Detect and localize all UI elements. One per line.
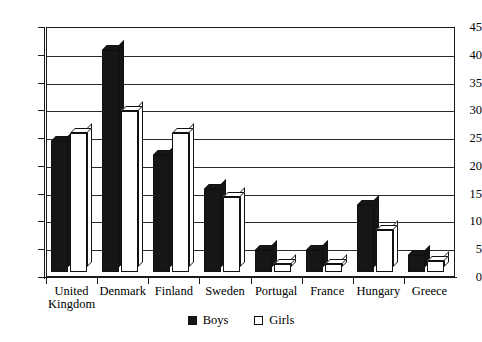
y-axis-tick (38, 166, 45, 167)
legend-label: Girls (269, 313, 294, 328)
bar-face (427, 261, 444, 272)
bar-face (204, 189, 221, 272)
bar-face (121, 111, 138, 272)
bar-face (255, 250, 272, 272)
x-axis-tick (353, 277, 354, 284)
y-axis-tick-label: 25 (448, 132, 482, 145)
bar-boys-4 (255, 250, 272, 272)
bar-side (240, 187, 245, 267)
bar-boys-6 (357, 205, 374, 272)
bar-face (274, 264, 291, 272)
x-axis-tick (46, 277, 47, 284)
y-axis-tick-label: 40 (448, 49, 482, 62)
bar-girls-7 (427, 261, 444, 272)
bar-face (102, 50, 119, 272)
x-axis-category-label: United Kingdom (46, 285, 97, 311)
y-axis-tick (38, 110, 45, 111)
x-axis-tick (97, 277, 98, 284)
x-axis-category-label: Greece (404, 285, 455, 298)
chart-legend: BoysGirls (0, 313, 482, 328)
bar-face (70, 133, 87, 272)
bar-boys-3 (204, 189, 221, 272)
bar-face (172, 133, 189, 272)
bar-boys-0 (51, 141, 68, 272)
bar-face (376, 230, 393, 272)
legend-item-boys: Boys (188, 313, 229, 328)
y-axis-tick-label: 20 (448, 160, 482, 173)
bar-girls-5 (325, 264, 342, 272)
bar-boys-1 (102, 50, 119, 272)
bar-face (153, 155, 170, 272)
y-axis-tick-label: 30 (448, 104, 482, 117)
bar-girls-0 (70, 133, 87, 272)
bar-girls-1 (121, 111, 138, 272)
x-axis-category-label: France (302, 285, 353, 298)
legend-label: Boys (203, 313, 229, 328)
y-axis-tick (38, 221, 45, 222)
y-axis-tick-label: 35 (448, 77, 482, 90)
x-axis-tick (251, 277, 252, 284)
x-axis-tick (199, 277, 200, 284)
y-axis-tick (38, 55, 45, 56)
bar-side (189, 123, 194, 267)
y-axis-tick (38, 249, 45, 250)
bar-face (408, 255, 425, 272)
outline-square-icon (254, 316, 263, 325)
bar-face (223, 197, 240, 272)
chart-container: 051015202530354045 United KingdomDenmark… (0, 0, 482, 342)
x-axis-category-label: Denmark (97, 285, 148, 298)
bar-boys-7 (408, 255, 425, 272)
y-axis-line (44, 27, 45, 279)
x-axis-tick (302, 277, 303, 284)
bar-boys-2 (153, 155, 170, 272)
x-axis-tick (404, 277, 405, 284)
bar-face (325, 264, 342, 272)
x-axis-category-label: Hungary (353, 285, 404, 298)
x-axis-category-label: Portugal (251, 285, 302, 298)
bar-face (51, 141, 68, 272)
y-axis-tick-label: 5 (448, 243, 482, 256)
x-axis-category-label: Finland (148, 285, 199, 298)
bar-girls-2 (172, 133, 189, 272)
y-axis-tick (38, 83, 45, 84)
legend-item-girls: Girls (254, 313, 294, 328)
y-axis-tick (38, 27, 45, 28)
bar-girls-3 (223, 197, 240, 272)
bar-boys-5 (306, 250, 323, 272)
bar-side (138, 101, 143, 267)
bar-side (87, 123, 92, 267)
x-axis-tick (148, 277, 149, 284)
y-axis-tick-label: 15 (448, 188, 482, 201)
filled-square-icon (188, 316, 197, 325)
bar-girls-4 (274, 264, 291, 272)
y-axis-tick-label: 10 (448, 215, 482, 228)
y-axis-tick (38, 138, 45, 139)
bar-face (357, 205, 374, 272)
bar-face (306, 250, 323, 272)
y-axis-tick (38, 194, 45, 195)
y-axis-tick-label: 45 (448, 21, 482, 34)
bar-girls-6 (376, 230, 393, 272)
x-axis-category-label: Sweden (199, 285, 250, 298)
